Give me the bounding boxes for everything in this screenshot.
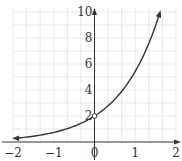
chart: −2−1012 246810 xyxy=(0,0,182,161)
y-tick-label: 6 xyxy=(85,57,93,71)
y-tick-label: 8 xyxy=(85,31,93,45)
y-tick-label: 2 xyxy=(85,109,93,123)
x-tick-labels: −2−1012 xyxy=(4,146,180,160)
open-point-marker xyxy=(92,114,97,119)
x-tick-label: 2 xyxy=(172,146,180,160)
y-tick-label: 4 xyxy=(85,83,93,97)
x-tick-label: 0 xyxy=(91,146,99,160)
y-tick-label: 10 xyxy=(77,5,92,19)
x-tick-label: −2 xyxy=(4,146,22,160)
x-tick-label: −1 xyxy=(45,146,63,160)
x-tick-label: 1 xyxy=(131,146,139,160)
